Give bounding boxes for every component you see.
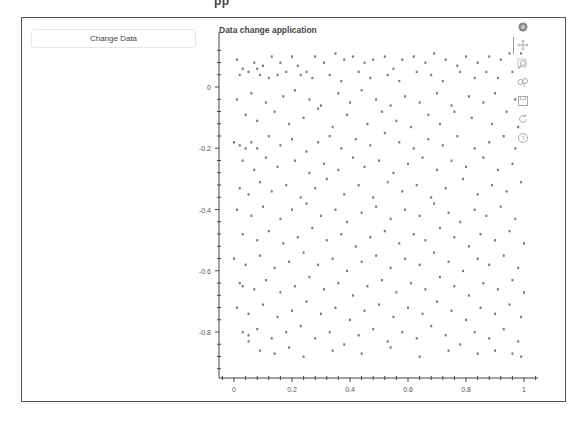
data-point xyxy=(413,233,415,235)
reset-tool[interactable] xyxy=(515,111,531,128)
data-point xyxy=(375,98,377,100)
data-point xyxy=(419,264,421,266)
data-point xyxy=(314,337,316,339)
data-point xyxy=(474,147,476,149)
data-point xyxy=(352,55,354,57)
data-point xyxy=(329,135,331,137)
data-point xyxy=(491,184,493,186)
data-point xyxy=(242,331,244,333)
data-point xyxy=(387,340,389,342)
data-point xyxy=(349,101,351,103)
data-point xyxy=(358,334,360,336)
data-point xyxy=(488,337,490,339)
data-point xyxy=(453,236,455,238)
data-point xyxy=(242,233,244,235)
data-point xyxy=(236,58,238,60)
save-tool[interactable] xyxy=(515,92,531,109)
data-point xyxy=(384,55,386,57)
data-point xyxy=(378,160,380,162)
data-point xyxy=(410,282,412,284)
data-point xyxy=(381,279,383,281)
data-point xyxy=(335,209,337,211)
data-point xyxy=(343,58,345,60)
data-point xyxy=(465,319,467,321)
data-point xyxy=(285,331,287,333)
data-point xyxy=(401,331,403,333)
data-point xyxy=(306,202,308,204)
y-tick-label: -0.6 xyxy=(199,268,211,275)
data-point xyxy=(306,300,308,302)
data-point xyxy=(390,104,392,106)
data-point xyxy=(248,340,250,342)
data-point xyxy=(427,114,429,116)
data-point xyxy=(242,160,244,162)
wheel-zoom-tool[interactable] xyxy=(515,74,531,91)
data-point xyxy=(332,349,334,351)
data-point xyxy=(320,104,322,106)
data-point xyxy=(294,160,296,162)
data-point xyxy=(320,215,322,217)
data-point xyxy=(430,325,432,327)
data-point xyxy=(366,123,368,125)
data-point xyxy=(477,258,479,260)
data-point xyxy=(248,334,250,336)
data-point xyxy=(378,303,380,305)
data-point xyxy=(369,77,371,79)
data-point xyxy=(271,337,273,339)
data-point xyxy=(474,331,476,333)
bokeh-logo[interactable] xyxy=(515,18,531,35)
data-point xyxy=(326,239,328,241)
data-point xyxy=(398,141,400,143)
data-point xyxy=(500,205,502,207)
data-point xyxy=(422,156,424,158)
data-point xyxy=(456,135,458,137)
data-point xyxy=(300,325,302,327)
data-point xyxy=(384,230,386,232)
data-point xyxy=(404,95,406,97)
data-point xyxy=(514,147,516,149)
data-point xyxy=(233,141,235,143)
data-point xyxy=(306,150,308,152)
scatter-plot[interactable]: 0-0.2-0.4-0.6-0.800.20.40.60.81 xyxy=(0,0,588,423)
data-point xyxy=(340,147,342,149)
data-point xyxy=(337,92,339,94)
data-point xyxy=(416,71,418,73)
data-point xyxy=(306,71,308,73)
data-point xyxy=(474,77,476,79)
data-point xyxy=(268,230,270,232)
data-point xyxy=(265,279,267,281)
data-point xyxy=(517,340,519,342)
data-point xyxy=(274,352,276,354)
data-point xyxy=(459,71,461,73)
pan-tool[interactable] xyxy=(515,37,531,54)
box-zoom-tool[interactable] xyxy=(515,55,531,72)
data-point xyxy=(445,187,447,189)
data-point xyxy=(497,77,499,79)
data-point xyxy=(361,352,363,354)
data-point xyxy=(253,288,255,290)
data-point xyxy=(372,58,374,60)
data-point xyxy=(468,95,470,97)
data-point xyxy=(337,169,339,171)
data-point xyxy=(436,92,438,94)
data-point xyxy=(364,62,366,64)
y-tick-label: -0.2 xyxy=(199,145,211,152)
data-point xyxy=(401,190,403,192)
data-point xyxy=(451,310,453,312)
data-point xyxy=(448,349,450,351)
data-point xyxy=(250,215,252,217)
data-point xyxy=(398,242,400,244)
data-point xyxy=(274,111,276,113)
help-tool[interactable]: ? xyxy=(515,129,531,146)
data-point xyxy=(511,352,513,354)
data-point xyxy=(349,319,351,321)
data-point xyxy=(491,123,493,125)
data-point xyxy=(488,55,490,57)
data-point xyxy=(520,316,522,318)
data-point xyxy=(323,62,325,64)
data-point xyxy=(500,58,502,60)
data-point xyxy=(445,334,447,336)
data-point xyxy=(459,343,461,345)
data-point xyxy=(282,95,284,97)
data-point xyxy=(332,258,334,260)
